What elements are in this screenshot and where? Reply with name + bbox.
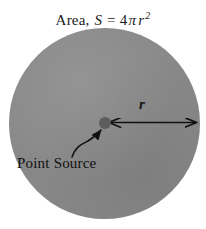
radius-label: r xyxy=(139,96,145,113)
physics-diagram-inverse-square-sphere: Area, S = 4πr2 r Point Source xyxy=(0,0,206,229)
formula-symbol-S: S xyxy=(93,12,103,28)
formula-equals: = xyxy=(107,12,116,28)
point-source-curved-arrow xyxy=(72,130,101,157)
formula-prefix: Area, xyxy=(56,12,90,28)
formula-symbol-r: r xyxy=(137,12,145,28)
formula-pi-symbol: π xyxy=(127,12,137,28)
point-source-callout-group xyxy=(0,0,206,229)
point-source-dot xyxy=(99,117,111,129)
area-formula-title: Area, S = 4πr2 xyxy=(0,10,206,29)
formula-exponent: 2 xyxy=(145,10,150,21)
point-source-label: Point Source xyxy=(17,155,96,172)
